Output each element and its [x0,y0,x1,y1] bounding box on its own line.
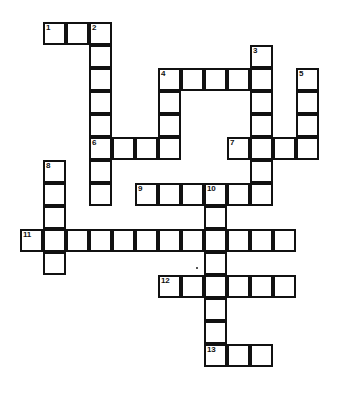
crossword-cell[interactable] [43,252,66,275]
crossword-cell[interactable] [250,91,273,114]
crossword-cell[interactable] [273,229,296,252]
crossword-cell[interactable] [181,183,204,206]
crossword-cell[interactable] [227,344,250,367]
crossword-cell[interactable] [296,91,319,114]
crossword-cell[interactable] [158,91,181,114]
crossword-cell[interactable] [250,183,273,206]
crossword-cell[interactable] [204,321,227,344]
crossword-cell[interactable] [227,275,250,298]
crossword-cell[interactable] [296,137,319,160]
crossword-cell[interactable] [204,344,227,367]
crossword-cell[interactable] [250,229,273,252]
crossword-cell[interactable] [158,137,181,160]
crossword-cell[interactable] [135,183,158,206]
crossword-cell[interactable] [273,275,296,298]
crossword-cell[interactable] [20,229,43,252]
crossword-cell[interactable] [204,229,227,252]
crossword-cell[interactable] [227,68,250,91]
crossword-cell[interactable] [135,137,158,160]
crossword-cell[interactable] [227,183,250,206]
crossword-puzzle: 12345678910111213 [0,0,347,407]
crossword-cell[interactable] [89,183,112,206]
crossword-cell[interactable] [296,68,319,91]
crossword-cell[interactable] [89,114,112,137]
crossword-cell[interactable] [181,229,204,252]
crossword-cell[interactable] [204,252,227,275]
crossword-cell[interactable] [227,137,250,160]
crossword-cell[interactable] [227,229,250,252]
crossword-cell[interactable] [250,160,273,183]
crossword-cell[interactable] [204,68,227,91]
crossword-cell[interactable] [204,275,227,298]
crossword-cell[interactable] [135,229,158,252]
crossword-cell[interactable] [158,275,181,298]
crossword-cell[interactable] [296,114,319,137]
crossword-cell[interactable] [158,229,181,252]
crossword-cell[interactable] [204,206,227,229]
crossword-cell[interactable] [89,45,112,68]
crossword-cell[interactable] [66,229,89,252]
crossword-cell[interactable] [250,275,273,298]
crossword-cell[interactable] [89,160,112,183]
crossword-cell[interactable] [250,68,273,91]
crossword-cell[interactable] [204,298,227,321]
crossword-cell[interactable] [89,229,112,252]
crossword-cell[interactable] [158,114,181,137]
crossword-cell[interactable] [43,229,66,252]
crossword-cell[interactable] [181,275,204,298]
crossword-cell[interactable] [43,22,66,45]
crossword-cell[interactable] [43,206,66,229]
crossword-cell[interactable] [112,229,135,252]
crossword-cell[interactable] [112,137,135,160]
crossword-cell[interactable] [181,68,204,91]
crossword-cell[interactable] [66,22,89,45]
crossword-cell[interactable] [273,137,296,160]
crossword-cell[interactable] [89,91,112,114]
crossword-cell[interactable] [43,183,66,206]
crossword-cell[interactable] [89,68,112,91]
crossword-cell[interactable] [158,68,181,91]
scan-speck [196,267,198,269]
crossword-cell[interactable] [250,114,273,137]
crossword-cell[interactable] [250,45,273,68]
crossword-cell[interactable] [250,137,273,160]
crossword-cell[interactable] [158,183,181,206]
crossword-cell[interactable] [89,137,112,160]
crossword-cell[interactable] [250,344,273,367]
crossword-cell[interactable] [43,160,66,183]
crossword-cell[interactable] [89,22,112,45]
crossword-cell[interactable] [204,183,227,206]
